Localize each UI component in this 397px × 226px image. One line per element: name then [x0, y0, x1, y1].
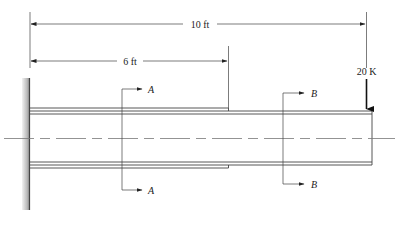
beam-diagram: 10 ft 6 ft A A B B [0, 0, 397, 226]
section-a-bottom-label: A [147, 185, 155, 196]
dimension-6ft-label: 6 ft [123, 56, 137, 67]
load-label: 20 K [357, 66, 378, 77]
point-load: 20 K [357, 66, 378, 109]
section-b-top-label: B [311, 88, 317, 99]
fixed-wall-support [22, 78, 30, 210]
dimension-10ft: 10 ft [31, 19, 365, 30]
beam-body [30, 111, 372, 165]
dimension-10ft-label: 10 ft [191, 19, 210, 30]
section-a-top-label: A [147, 84, 155, 95]
section-cut-a: A A [122, 84, 155, 196]
cover-plates [30, 108, 229, 168]
section-b-bottom-label: B [311, 179, 317, 190]
dimension-6ft: 6 ft [31, 56, 227, 67]
